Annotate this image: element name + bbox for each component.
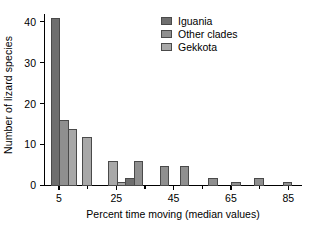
- legend-item: Other clades: [161, 28, 238, 40]
- y-axis-line: [44, 14, 45, 186]
- bar: [283, 182, 293, 186]
- legend-swatch: [161, 43, 172, 51]
- y-axis-tick: 10: [40, 144, 44, 145]
- y-axis-tick-label: 30: [24, 57, 36, 69]
- x-axis-tick: 25: [116, 186, 117, 190]
- histogram-figure: Number of lizard species 010203040 52545…: [0, 0, 313, 230]
- bar: [160, 166, 170, 186]
- bar: [82, 137, 92, 186]
- y-axis-tick: 40: [40, 21, 44, 22]
- x-axis-title: Percent time moving (median values): [44, 208, 302, 220]
- chart-legend: IguaniaOther cladesGekkota: [161, 15, 238, 54]
- legend-label: Other clades: [178, 29, 238, 40]
- y-axis-tick: 20: [40, 103, 44, 104]
- bar: [134, 161, 144, 186]
- x-axis-tick-label: 5: [56, 192, 62, 204]
- legend-item: Iguania: [161, 15, 238, 27]
- legend-swatch: [161, 30, 172, 38]
- bar: [208, 178, 218, 186]
- x-axis-minor-tick: [202, 186, 203, 189]
- y-axis-tick: 0: [40, 185, 44, 186]
- y-axis-tick-label: 10: [24, 138, 36, 150]
- bar: [231, 182, 241, 186]
- x-axis-minor-tick: [259, 186, 260, 189]
- x-axis-tick: 85: [288, 186, 289, 190]
- y-axis-title: Number of lizard species: [0, 0, 16, 190]
- legend-swatch: [161, 17, 172, 25]
- bar: [117, 182, 127, 186]
- x-axis-minor-tick: [144, 186, 145, 189]
- legend-label: Gekkota: [178, 42, 217, 53]
- x-axis-tick: 65: [230, 186, 231, 190]
- bar: [180, 166, 190, 186]
- x-axis-tick-label: 45: [168, 192, 180, 204]
- y-axis-tick: 30: [40, 62, 44, 63]
- x-axis-tick-label: 25: [110, 192, 122, 204]
- bar: [68, 129, 78, 186]
- legend-item: Gekkota: [161, 41, 238, 53]
- x-axis-tick: 5: [58, 186, 59, 190]
- y-axis-tick-label: 20: [24, 98, 36, 110]
- x-axis-tick-label: 65: [225, 192, 237, 204]
- bar: [254, 178, 264, 186]
- x-axis-minor-tick: [87, 186, 88, 189]
- legend-label: Iguania: [178, 16, 212, 27]
- y-axis-tick-label: 40: [24, 16, 36, 28]
- x-axis-tick-label: 85: [282, 192, 294, 204]
- y-axis-title-text: Number of lizard species: [2, 36, 14, 154]
- x-axis-tick: 45: [173, 186, 174, 190]
- y-axis-tick-label: 0: [30, 179, 36, 191]
